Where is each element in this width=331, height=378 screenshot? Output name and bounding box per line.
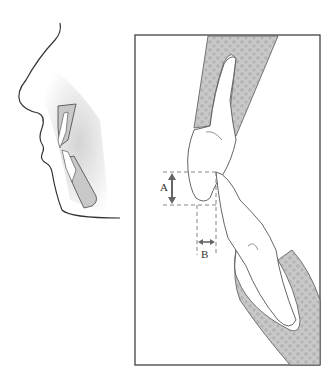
face-shading bbox=[40, 70, 110, 215]
label-b: B bbox=[201, 248, 208, 260]
face-profile bbox=[19, 23, 120, 218]
label-a: A bbox=[160, 181, 168, 193]
